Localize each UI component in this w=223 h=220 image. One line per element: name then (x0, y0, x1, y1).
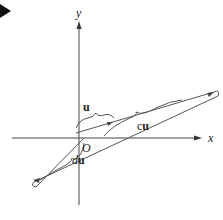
vector-line-lower (34, 96, 218, 182)
cu-arrow-icon (214, 91, 219, 96)
y-axis-arrow-icon (77, 21, 82, 29)
pointer-triangle-icon (0, 4, 11, 18)
diagram-canvas (0, 0, 223, 220)
vector-u-label: u (83, 101, 90, 113)
y-axis-label: y (76, 7, 81, 19)
cu-arrowhead-icon (207, 92, 214, 97)
du-vector: u (78, 153, 85, 167)
u-arrowhead-icon (107, 122, 113, 126)
vector-du-label: du (72, 154, 85, 166)
cu-vector: u (142, 119, 149, 133)
x-axis-label: x (208, 132, 213, 144)
vector-cu-label: cu (137, 120, 149, 132)
x-axis-arrow-icon (194, 136, 202, 141)
